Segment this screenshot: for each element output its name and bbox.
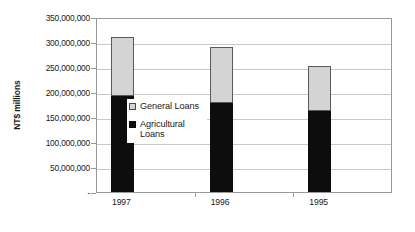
x-axis-tickmark bbox=[293, 193, 294, 197]
gridline bbox=[97, 94, 391, 95]
bar-segment-agricultural-loans bbox=[210, 103, 233, 192]
gridline bbox=[97, 44, 391, 45]
y-axis-tick-label: - bbox=[87, 188, 90, 198]
x-axis-tick-label: 1996 bbox=[211, 197, 230, 207]
y-axis-tick-label: 150,000,000 bbox=[46, 113, 90, 123]
y-axis-tickmark bbox=[91, 43, 96, 44]
legend-label-agricultural-loans: Agricultural Loans bbox=[140, 119, 204, 140]
chart-legend: General Loans Agricultural Loans bbox=[127, 99, 207, 143]
y-axis-tick-label: 350,000,000 bbox=[46, 13, 90, 23]
stacked-bar-chart: NT$ millions -50,000,000100,000,000150,0… bbox=[0, 0, 415, 232]
gridline bbox=[97, 169, 391, 170]
legend-swatch-agricultural-loans-icon bbox=[129, 121, 136, 128]
legend-item-general-loans: General Loans bbox=[129, 101, 204, 112]
y-axis-tickmark bbox=[91, 18, 96, 19]
bar-segment-agricultural-loans bbox=[308, 111, 331, 192]
bar-segment-general-loans bbox=[210, 47, 233, 104]
y-axis-tick-label: 250,000,000 bbox=[46, 63, 90, 73]
bar-group bbox=[210, 17, 233, 192]
y-axis-tick-label: 100,000,000 bbox=[46, 138, 90, 148]
y-axis-tickmark bbox=[91, 118, 96, 119]
bar-segment-general-loans bbox=[308, 66, 331, 112]
x-axis-tickmark bbox=[195, 193, 196, 197]
y-axis-tickmark bbox=[91, 68, 96, 69]
y-axis-tick-label: 200,000,000 bbox=[46, 88, 90, 98]
y-axis-tick-label: 300,000,000 bbox=[46, 38, 90, 48]
legend-swatch-general-loans-icon bbox=[129, 103, 136, 110]
gridline bbox=[97, 144, 391, 145]
gridline bbox=[97, 69, 391, 70]
x-axis-tick-labels: 199719961995 bbox=[96, 197, 392, 213]
y-axis-tick-label: 50,000,000 bbox=[50, 163, 90, 173]
legend-label-general-loans: General Loans bbox=[140, 101, 199, 112]
x-axis-tick-label: 1995 bbox=[309, 197, 328, 207]
y-axis-tickmark bbox=[91, 93, 96, 94]
y-axis-tickmark bbox=[91, 168, 96, 169]
y-axis-tick-labels: -50,000,000100,000,000150,000,000200,000… bbox=[18, 15, 90, 193]
y-axis-tickmark bbox=[91, 193, 96, 194]
legend-item-agricultural-loans: Agricultural Loans bbox=[129, 119, 204, 140]
bar-group bbox=[308, 17, 331, 192]
bar-segment-general-loans bbox=[111, 37, 134, 96]
x-axis-tick-label: 1997 bbox=[112, 197, 131, 207]
y-axis-tickmark bbox=[91, 143, 96, 144]
